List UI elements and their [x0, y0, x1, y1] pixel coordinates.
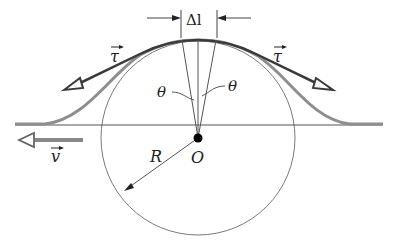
diagram-canvas: Δl θ θ τ τ v R O [0, 0, 393, 247]
theta-right-leader [202, 86, 225, 96]
theta-right-label: θ [228, 77, 237, 95]
center-point [194, 134, 203, 143]
velocity-label-group: v [51, 146, 64, 166]
velocity-label: v [51, 147, 60, 166]
center-label: O [191, 148, 204, 167]
tension-vector-left [64, 40, 198, 90]
velocity-vector [19, 133, 83, 147]
tau-right-label-group: τ [273, 45, 287, 66]
tension-vector-right [198, 40, 333, 90]
tau-right-label: τ [273, 47, 283, 66]
radius-label: R [149, 147, 162, 166]
delta-l-label: Δl [186, 11, 202, 29]
radial-line-left [182, 40, 198, 138]
rope-curve [15, 40, 383, 124]
theta-left-label: θ [157, 83, 166, 101]
tau-left-label: τ [110, 47, 120, 66]
